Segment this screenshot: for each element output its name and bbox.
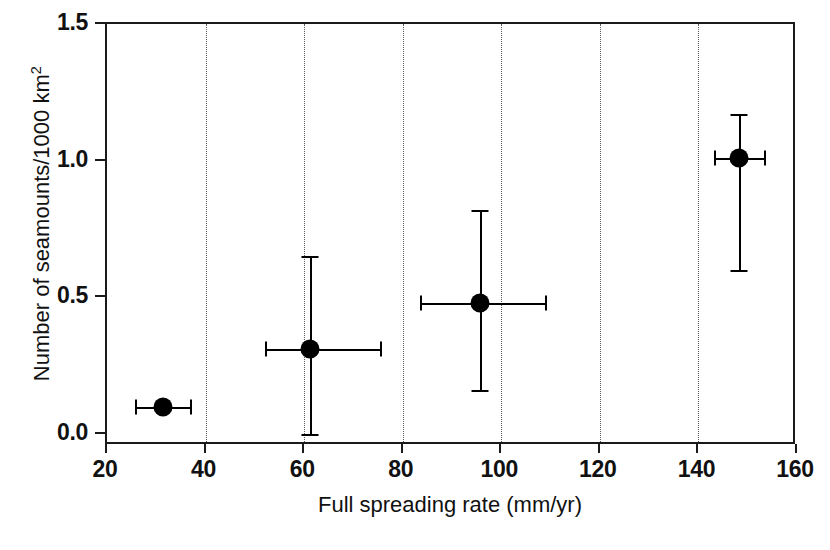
- x-tick-80: [401, 444, 403, 453]
- x-error-cap-high-point-3: [545, 295, 547, 310]
- y-axis-title-main: Number of seamounts/1000 km: [30, 74, 55, 381]
- x-tick-60: [302, 444, 304, 453]
- x-error-cap-low-point-3: [420, 295, 422, 310]
- y-error-cap-high-point-3: [472, 210, 489, 212]
- figure: 0.00.51.01.5 20406080100120140160 Full s…: [0, 0, 830, 550]
- x-error-cap-low-point-2: [265, 342, 267, 357]
- marker-point-4: [729, 148, 748, 167]
- marker-point-2: [301, 340, 320, 359]
- x-error-cap-high-point-4: [764, 150, 766, 165]
- y-tick-label-1.5: 1.5: [57, 9, 88, 36]
- y-error-cap-high-point-2: [302, 256, 319, 258]
- gridline-x-60: [304, 24, 305, 442]
- y-tick-1.0: [95, 159, 105, 161]
- x-tick-140: [696, 444, 698, 453]
- x-error-cap-high-point-1: [190, 399, 192, 414]
- y-error-cap-low-point-2: [302, 434, 319, 436]
- gridline-x-140: [698, 24, 699, 442]
- x-tick-label-140: 140: [678, 456, 715, 483]
- y-axis-title-superscript: 2: [28, 66, 44, 74]
- y-axis-title: Number of seamounts/1000 km2: [28, 14, 55, 434]
- marker-point-1: [154, 397, 173, 416]
- x-axis-title: Full spreading rate (mm/yr): [105, 492, 795, 518]
- y-tick-label-0.0: 0.0: [57, 419, 88, 446]
- y-tick-0.5: [95, 295, 105, 297]
- x-tick-label-100: 100: [481, 456, 518, 483]
- x-tick-100: [499, 444, 501, 453]
- x-tick-label-80: 80: [388, 456, 413, 483]
- gridline-x-100: [501, 24, 502, 442]
- gridline-x-80: [403, 24, 404, 442]
- y-tick-0.0: [95, 432, 105, 434]
- x-tick-label-20: 20: [93, 456, 118, 483]
- x-axis-title-text: Full spreading rate (mm/yr): [318, 492, 582, 517]
- x-error-cap-low-point-1: [135, 399, 137, 414]
- x-error-cap-low-point-4: [714, 150, 716, 165]
- x-tick-label-40: 40: [191, 456, 216, 483]
- x-tick-label-160: 160: [776, 456, 813, 483]
- y-error-cap-low-point-4: [730, 270, 747, 272]
- y-axis-title-text: Number of seamounts/1000 km2: [30, 66, 55, 381]
- gridline-x-120: [600, 24, 601, 442]
- y-tick-label-0.5: 0.5: [57, 282, 88, 309]
- plot-area: [105, 22, 795, 444]
- x-error-bar-point-2: [265, 349, 380, 351]
- x-error-cap-high-point-2: [380, 342, 382, 357]
- y-error-cap-low-point-3: [472, 390, 489, 392]
- marker-point-3: [471, 293, 490, 312]
- y-error-cap-high-point-4: [730, 114, 747, 116]
- y-tick-label-1.0: 1.0: [57, 145, 88, 172]
- x-tick-40: [204, 444, 206, 453]
- y-tick-1.5: [95, 22, 105, 24]
- x-tick-20: [105, 444, 107, 453]
- x-tick-160: [795, 444, 797, 453]
- x-tick-label-60: 60: [290, 456, 315, 483]
- gridline-x-40: [206, 24, 207, 442]
- x-tick-label-120: 120: [579, 456, 616, 483]
- x-tick-120: [598, 444, 600, 453]
- y-error-bar-point-4: [739, 114, 741, 270]
